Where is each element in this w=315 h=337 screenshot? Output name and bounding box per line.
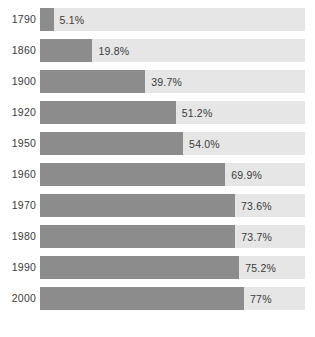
bar-track: 69.9% — [40, 163, 305, 186]
bar-row: 198073.7% — [0, 225, 305, 248]
bar-value-label: 69.9% — [231, 169, 262, 180]
bar-track: 73.6% — [40, 194, 305, 217]
bar-row: 196069.9% — [0, 163, 305, 186]
bar-row: 199075.2% — [0, 256, 305, 279]
category-label: 2000 — [0, 293, 38, 304]
category-label: 1900 — [0, 76, 38, 87]
bar-fill — [40, 39, 92, 62]
bar-track: 77% — [40, 287, 305, 310]
category-label: 1790 — [0, 14, 38, 25]
bar-row: 192051.2% — [0, 101, 305, 124]
bar-fill — [40, 70, 145, 93]
bar-value-label: 75.2% — [245, 262, 276, 273]
bar-track: 19.8% — [40, 39, 305, 62]
bar-fill — [40, 225, 235, 248]
bar-fill — [40, 256, 239, 279]
bar-value-label: 39.7% — [151, 76, 182, 87]
bar-value-label: 51.2% — [182, 107, 213, 118]
bar-row: 197073.6% — [0, 194, 305, 217]
bar-fill — [40, 194, 235, 217]
category-label: 1970 — [0, 200, 38, 211]
bar-row: 17905.1% — [0, 8, 305, 31]
category-label: 1980 — [0, 231, 38, 242]
bar-track: 39.7% — [40, 70, 305, 93]
bar-track: 54.0% — [40, 132, 305, 155]
bar-fill — [40, 101, 176, 124]
bar-fill — [40, 8, 54, 31]
bar-value-label: 19.8% — [98, 45, 129, 56]
category-label: 1960 — [0, 169, 38, 180]
bar-value-label: 54.0% — [189, 138, 220, 149]
bar-fill — [40, 287, 244, 310]
bar-value-label: 77% — [250, 293, 272, 304]
category-label: 1990 — [0, 262, 38, 273]
bar-value-label: 73.6% — [241, 200, 272, 211]
bar-fill — [40, 132, 183, 155]
bar-track: 51.2% — [40, 101, 305, 124]
bar-track: 5.1% — [40, 8, 305, 31]
horizontal-bar-chart: 17905.1%186019.8%190039.7%192051.2%19505… — [0, 0, 315, 337]
bar-value-label: 5.1% — [60, 14, 85, 25]
category-label: 1860 — [0, 45, 38, 56]
bar-row: 186019.8% — [0, 39, 305, 62]
bar-value-label: 73.7% — [241, 231, 272, 242]
bar-row: 190039.7% — [0, 70, 305, 93]
bar-row: 200077% — [0, 287, 305, 310]
category-label: 1920 — [0, 107, 38, 118]
bar-track: 73.7% — [40, 225, 305, 248]
category-label: 1950 — [0, 138, 38, 149]
bar-track: 75.2% — [40, 256, 305, 279]
bar-fill — [40, 163, 225, 186]
bar-row: 195054.0% — [0, 132, 305, 155]
